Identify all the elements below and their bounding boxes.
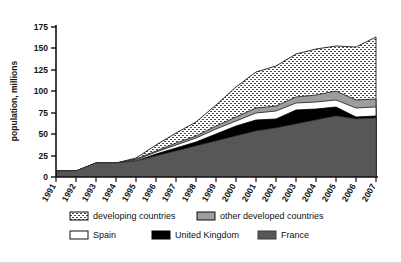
area-stack <box>56 37 376 177</box>
chart-legend: developing countries other developed cou… <box>70 211 324 240</box>
x-tick-2007: 2007 <box>360 182 378 204</box>
white-swatch-icon <box>70 231 88 239</box>
x-axis-tick-labels: 1991 1992 1993 1994 1995 1996 1997 1998 … <box>40 182 378 204</box>
x-tick-2001: 2001 <box>240 182 258 204</box>
y-tick-50: 50 <box>39 129 49 139</box>
x-tick-1993: 1993 <box>80 182 98 204</box>
x-tick-2002: 2002 <box>260 182 278 204</box>
y-tick-25: 25 <box>39 151 49 161</box>
legend-item-france[interactable]: France <box>258 230 309 240</box>
x-tick-1994: 1994 <box>100 182 118 204</box>
x-tick-1992: 1992 <box>60 182 78 204</box>
y-tick-125: 125 <box>34 65 48 75</box>
x-tick-1991: 1991 <box>40 182 58 204</box>
dotted-swatch-icon <box>70 212 88 220</box>
x-tick-2000: 2000 <box>220 182 238 204</box>
legend-item-spain[interactable]: Spain <box>70 230 116 240</box>
y-axis-tick-labels: 175 150 125 100 75 50 25 0 <box>34 22 48 182</box>
black-swatch-icon <box>152 231 170 239</box>
legend-label-developing-countries: developing countries <box>93 211 176 221</box>
y-tick-175: 175 <box>34 22 48 32</box>
legend-item-united-kingdom[interactable]: United Kingdom <box>152 230 239 240</box>
chart-figure: 175 150 125 100 75 50 25 0 population, m… <box>0 0 401 263</box>
legend-label-spain: Spain <box>93 230 116 240</box>
x-tick-1995: 1995 <box>120 182 138 204</box>
x-tick-2003: 2003 <box>280 182 298 204</box>
x-tick-2006: 2006 <box>340 182 358 204</box>
y-tick-100: 100 <box>34 86 48 96</box>
x-tick-1999: 1999 <box>200 182 218 204</box>
darkgray-swatch-icon <box>258 231 276 239</box>
y-tick-75: 75 <box>39 108 49 118</box>
y-tick-150: 150 <box>34 43 48 53</box>
gray-swatch-icon <box>197 212 215 220</box>
legend-label-united-kingdom: United Kingdom <box>175 230 239 240</box>
legend-label-france: France <box>281 230 309 240</box>
x-tick-1996: 1996 <box>140 182 158 204</box>
stacked-area-chart: 175 150 125 100 75 50 25 0 population, m… <box>0 0 401 263</box>
y-tick-0: 0 <box>43 172 48 182</box>
x-tick-2004: 2004 <box>300 182 318 204</box>
legend-label-other-developed-countries: other developed countries <box>220 211 324 221</box>
y-axis-title: population, millions <box>9 61 19 142</box>
x-tick-2005: 2005 <box>320 182 338 204</box>
x-tick-1997: 1997 <box>160 182 178 204</box>
legend-item-other-developed-countries[interactable]: other developed countries <box>197 211 324 221</box>
legend-item-developing-countries[interactable]: developing countries <box>70 211 176 221</box>
x-tick-1998: 1998 <box>180 182 198 204</box>
